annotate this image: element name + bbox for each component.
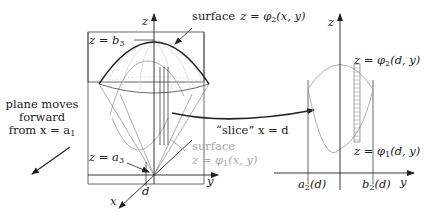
- d-label: d: [142, 184, 149, 198]
- lower-surface-equation: z = φ1(x, y): [191, 153, 257, 168]
- left-y-axis-label: y: [206, 174, 214, 188]
- lower-bowl-curve: [112, 118, 168, 150]
- plane-moves-line2: forward: [19, 110, 66, 124]
- right-z-axis-label: z: [327, 15, 335, 29]
- left-3d-panel: z y x d z = b3 z = a3 surfacez = φ2(x, y…: [6, 9, 306, 208]
- b2d-label: b2(d): [362, 177, 391, 192]
- plane-moves-line1: plane moves: [6, 97, 79, 111]
- integration-strip: [354, 64, 360, 142]
- z-equals-b3-label: z = b3: [88, 33, 124, 48]
- slice-transfer-arrow: [172, 110, 314, 119]
- slice-label: “slice” x = d: [216, 123, 289, 137]
- dome-meridians: [100, 40, 209, 90]
- upper-surface-label: surfacez = φ2(x, y): [192, 9, 306, 24]
- a2d-label: a2(d): [298, 177, 326, 192]
- volume-slicing-diagram: z y x d z = b3 z = a3 surfacez = φ2(x, y…: [0, 0, 432, 220]
- plane-direction-arrow: [32, 147, 70, 174]
- left-z-axis-label: z: [141, 14, 149, 28]
- slice-plane: [160, 67, 168, 145]
- right-y-axis-label: y: [399, 175, 407, 189]
- upper-cross-section-curve: [308, 65, 373, 90]
- plane-moves-line3: from x = a1: [9, 123, 76, 138]
- upper-surface-leader: [175, 28, 192, 44]
- phi1-dy-label: z = φ1(d, y): [353, 144, 420, 159]
- x-axis: [119, 140, 192, 208]
- right-2d-panel: z y z = φ2(d, y) z = φ1(d, y) a2(d) b2(d…: [274, 14, 420, 192]
- lower-surface-word: surface: [192, 139, 235, 153]
- inner-dome-curve: [110, 61, 184, 115]
- left-x-axis-label: x: [110, 194, 117, 208]
- z-equals-a3-label: z = a3: [88, 150, 124, 165]
- phi2-dy-label: z = φ2(d, y): [353, 53, 420, 68]
